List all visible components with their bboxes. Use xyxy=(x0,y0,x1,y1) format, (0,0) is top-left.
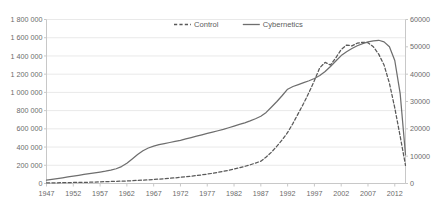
y-axis-right: 0100002000030000400005000060000 xyxy=(406,15,431,188)
y-axis-left-tick-label: 200 000 xyxy=(17,161,43,170)
y-axis-left-tick-label: 1 600 000 xyxy=(11,33,43,42)
x-axis-tick-label: 2012 xyxy=(387,189,403,198)
y-axis-left-tick-label: 1 400 000 xyxy=(11,52,43,61)
y-axis-left-tick-label: 400 000 xyxy=(17,143,43,152)
x-axis-tick-label: 1952 xyxy=(65,189,81,198)
x-axis-tick-label: 1992 xyxy=(280,189,296,198)
y-axis-left-tick-label: 800 000 xyxy=(17,106,43,115)
legend-label-cybernetics: Cybernetics xyxy=(263,20,303,29)
y-axis-left-tick-label: 600 000 xyxy=(17,124,43,133)
legend-label-control: Control xyxy=(194,20,219,29)
y-axis-left-tick-label: 1 800 000 xyxy=(11,15,43,24)
chart-canvas: 0200 000400 000600 000800 0001 000 0001 … xyxy=(0,0,444,211)
x-axis-tick-label: 2007 xyxy=(360,189,376,198)
x-axis-tick-label: 1967 xyxy=(146,189,162,198)
x-axis-tick-label: 1947 xyxy=(39,189,55,198)
series-line-control xyxy=(47,42,406,183)
x-axis: 1947195219571962196719721977198219871992… xyxy=(39,184,406,198)
x-axis-tick-label: 1977 xyxy=(199,189,215,198)
x-axis-tick-label: 1957 xyxy=(92,189,108,198)
y-axis-right-tick-label: 40000 xyxy=(410,70,430,79)
x-axis-tick-label: 1997 xyxy=(306,189,322,198)
dual-axis-line-chart: 0200 000400 000600 000800 0001 000 0001 … xyxy=(0,0,444,211)
gridlines xyxy=(47,20,406,184)
y-axis-right-tick-label: 50000 xyxy=(410,42,430,51)
x-axis-tick-label: 1962 xyxy=(119,189,135,198)
y-axis-left-tick-label: 1 000 000 xyxy=(11,88,43,97)
y-axis-left-tick-label: 1 200 000 xyxy=(11,70,43,79)
y-axis-right-tick-label: 20000 xyxy=(410,124,430,133)
x-axis-tick-label: 1987 xyxy=(253,189,269,198)
x-axis-tick-label: 1982 xyxy=(226,189,242,198)
x-axis-tick-label: 2002 xyxy=(333,189,349,198)
chart-legend: ControlCybernetics xyxy=(174,20,303,29)
y-axis-right-tick-label: 0 xyxy=(410,179,414,188)
x-axis-tick-label: 1972 xyxy=(172,189,188,198)
y-axis-left-tick-label: 0 xyxy=(39,179,43,188)
y-axis-right-tick-label: 10000 xyxy=(410,152,430,161)
y-axis-right-tick-label: 60000 xyxy=(410,15,430,24)
y-axis-right-tick-label: 30000 xyxy=(410,97,430,106)
series-lines xyxy=(47,40,406,183)
y-axis-left: 0200 000400 000600 000800 0001 000 0001 … xyxy=(11,15,47,188)
